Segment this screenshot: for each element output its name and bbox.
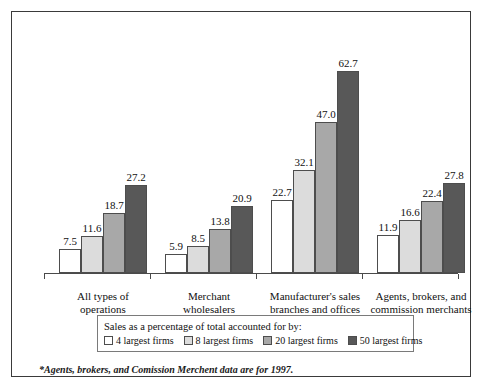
legend-items: 4 largest firms8 largest firms20 largest… (104, 335, 407, 346)
legend-item-0: 4 largest firms (104, 335, 174, 346)
bar (377, 235, 399, 273)
legend-item-1: 8 largest firms (184, 335, 254, 346)
legend-label: 8 largest firms (196, 335, 254, 346)
legend-item-2: 20 largest firms (263, 335, 338, 346)
bars-layer: 7.511.618.727.25.98.513.820.922.732.147.… (34, 22, 472, 274)
bar (399, 220, 421, 273)
axis-tick-4 (458, 274, 459, 279)
bar (81, 236, 103, 273)
legend-title: Sales as a percentage of total accounted… (104, 320, 407, 333)
legend-label: 20 largest firms (275, 335, 338, 346)
bar (125, 185, 147, 273)
bar-value-label: 27.8 (437, 170, 471, 181)
axis-tick-0 (44, 274, 45, 279)
legend-swatch-icon (104, 336, 113, 345)
axis-tick-1 (150, 274, 151, 279)
bar (103, 213, 125, 273)
bar (271, 200, 293, 273)
plot-area: 7.511.618.727.25.98.513.820.922.732.147.… (34, 22, 472, 277)
category-label-line: Merchant (154, 290, 264, 303)
bar-value-label: 20.9 (225, 193, 259, 204)
bar-value-label: 62.7 (331, 58, 365, 69)
legend-swatch-icon (184, 336, 193, 345)
category-label-line: Agents, brokers, and (366, 290, 476, 303)
legend-label: 4 largest firms (116, 335, 174, 346)
bar (165, 254, 187, 273)
bar (209, 229, 231, 273)
bar (337, 71, 359, 273)
legend-label: 50 largest firms (360, 335, 423, 346)
category-label-1: Merchantwholesalers (154, 290, 264, 316)
bar (187, 246, 209, 273)
chart-frame: 7.511.618.727.25.98.513.820.922.732.147.… (11, 11, 471, 377)
bar (443, 183, 465, 273)
category-label-3: Agents, brokers, andcommission merchants (366, 290, 476, 316)
bar (293, 170, 315, 273)
bar-value-label: 27.2 (119, 172, 153, 183)
chart-figure: 7.511.618.727.25.98.513.820.922.732.147.… (0, 0, 484, 390)
category-label-0: All types ofoperations (48, 290, 158, 316)
chart-footnote: *Agents, brokers, and Comission Merchent… (39, 364, 293, 375)
legend-swatch-icon (348, 336, 357, 345)
legend-swatch-icon (263, 336, 272, 345)
bar (315, 122, 337, 273)
chart-legend: Sales as a percentage of total accounted… (97, 315, 414, 352)
category-label-2: Manufacturer's salesbranches and offices (260, 290, 370, 316)
category-label-line: All types of (48, 290, 158, 303)
legend-item-3: 50 largest firms (348, 335, 423, 346)
bar (421, 201, 443, 273)
axis-tick-3 (362, 274, 363, 279)
bar (231, 206, 253, 273)
axis-tick-2 (256, 274, 257, 279)
bar (59, 249, 81, 273)
category-label-line: Manufacturer's sales (260, 290, 370, 303)
